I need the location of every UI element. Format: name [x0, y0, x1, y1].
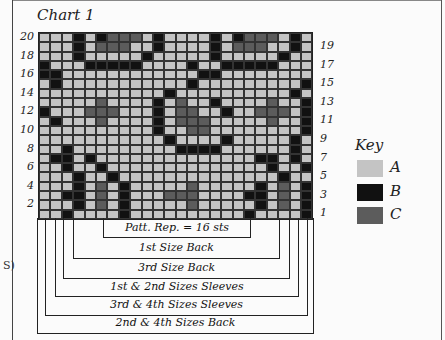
grid-cell	[176, 98, 187, 107]
grid-cell	[96, 126, 107, 135]
grid-cell	[130, 70, 141, 79]
grid-cell	[62, 107, 73, 116]
grid-cell	[198, 61, 209, 70]
grid-cell	[244, 70, 255, 79]
grid-cell	[62, 126, 73, 135]
stray-text: S)	[3, 259, 15, 272]
grid-cell	[153, 42, 164, 51]
grid-cell	[50, 52, 61, 61]
grid-cell	[221, 61, 232, 70]
grid-cell	[50, 182, 61, 191]
key-label-c: C	[390, 205, 401, 223]
grid-cell	[278, 117, 289, 126]
grid-cell	[142, 200, 153, 209]
grid-cell	[221, 52, 232, 61]
grid-cell	[39, 98, 50, 107]
grid-cell	[301, 117, 312, 126]
grid-cell	[233, 200, 244, 209]
grid-cell	[290, 145, 301, 154]
grid-cell	[267, 107, 278, 116]
grid-cell	[107, 61, 118, 70]
grid-cell	[85, 145, 96, 154]
grid-cell	[290, 200, 301, 209]
grid-cell	[153, 145, 164, 154]
grid-cell	[290, 126, 301, 135]
grid-cell	[50, 145, 61, 154]
grid-cell	[50, 107, 61, 116]
grid-cell	[96, 89, 107, 98]
grid-cell	[50, 98, 61, 107]
grid-cell	[267, 79, 278, 88]
page-border-right	[441, 0, 442, 340]
grid-cell	[187, 33, 198, 42]
grid-cell	[153, 172, 164, 181]
grid-cell	[62, 98, 73, 107]
grid-cell	[50, 191, 61, 200]
grid-cell	[267, 200, 278, 209]
row-label-left: 18	[14, 49, 34, 62]
grid-cell	[73, 70, 84, 79]
grid-cell	[96, 98, 107, 107]
grid-cell	[85, 117, 96, 126]
grid-cell	[164, 61, 175, 70]
key-swatch-b	[357, 184, 383, 201]
grid-cell	[62, 70, 73, 79]
grid-cell	[130, 200, 141, 209]
grid-cell	[130, 182, 141, 191]
grid-cell	[233, 135, 244, 144]
grid-cell	[39, 135, 50, 144]
grid-cell	[255, 70, 266, 79]
grid-cell	[198, 117, 209, 126]
grid-cell	[73, 107, 84, 116]
grid-cell	[39, 145, 50, 154]
grid-cell	[85, 107, 96, 116]
grid-cell	[176, 126, 187, 135]
grid-cell	[244, 154, 255, 163]
grid-cell	[142, 70, 153, 79]
grid-cell	[210, 61, 221, 70]
grid-cell	[119, 182, 130, 191]
key-label-a: A	[390, 158, 401, 176]
grid-cell	[255, 163, 266, 172]
grid-cell	[153, 33, 164, 42]
grid-cell	[107, 107, 118, 116]
grid-cell	[130, 89, 141, 98]
grid-cell	[233, 70, 244, 79]
grid-cell	[119, 163, 130, 172]
grid-cell	[278, 89, 289, 98]
grid-cell	[164, 163, 175, 172]
grid-cell	[96, 163, 107, 172]
grid-cell	[301, 126, 312, 135]
grid-cell	[233, 42, 244, 51]
grid-cell	[107, 42, 118, 51]
chart-title: Chart 1	[37, 6, 95, 24]
grid-cell	[244, 200, 255, 209]
grid-cell	[164, 79, 175, 88]
grid-cell	[73, 42, 84, 51]
grid-cell	[244, 42, 255, 51]
grid-cell	[187, 191, 198, 200]
grid-cell	[119, 98, 130, 107]
grid-cell	[164, 126, 175, 135]
grid-cell	[221, 89, 232, 98]
row-label-left: 14	[14, 86, 34, 99]
grid-cell	[233, 191, 244, 200]
grid-cell	[50, 200, 61, 209]
grid-cell	[198, 52, 209, 61]
grid-cell	[221, 135, 232, 144]
grid-cell	[73, 135, 84, 144]
grid-cell	[176, 163, 187, 172]
grid-cell	[198, 191, 209, 200]
grid-cell	[119, 135, 130, 144]
grid-cell	[119, 145, 130, 154]
grid-cell	[290, 163, 301, 172]
grid-cell	[187, 163, 198, 172]
grid-cell	[278, 172, 289, 181]
grid-cell	[130, 42, 141, 51]
grid-cell	[73, 61, 84, 70]
grid-cell	[301, 163, 312, 172]
grid-cell	[50, 89, 61, 98]
grid-cell	[187, 126, 198, 135]
grid-cell	[130, 79, 141, 88]
grid-cell	[50, 33, 61, 42]
